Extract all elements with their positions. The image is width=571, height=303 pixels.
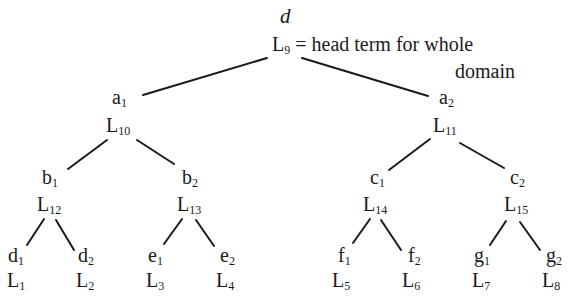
leaf-d1-var: d1 bbox=[8, 245, 24, 265]
edge-c2-g1 bbox=[490, 221, 506, 245]
node-c1-term: L14 bbox=[363, 194, 387, 214]
leaf-d2-var: d2 bbox=[78, 245, 94, 265]
edge-b1-d1 bbox=[27, 219, 44, 245]
node-b1-term: L12 bbox=[37, 194, 61, 214]
leaf-g2-term: L8 bbox=[542, 270, 560, 290]
node-c2-var: c2 bbox=[510, 167, 525, 187]
node-a1-term: L10 bbox=[106, 115, 130, 135]
edge-b2-e1 bbox=[164, 219, 182, 244]
leaf-e2-term: L4 bbox=[216, 270, 234, 290]
leaf-d1-term: L1 bbox=[7, 270, 25, 290]
edge-a2-c2 bbox=[460, 143, 504, 168]
leaf-e1-var: e1 bbox=[148, 245, 163, 265]
edge-c2-g2 bbox=[520, 222, 540, 250]
leaf-d2-term: L2 bbox=[76, 270, 94, 290]
edge-b2-e2 bbox=[196, 220, 214, 246]
root-annotation: = head term for whole bbox=[295, 33, 473, 55]
edge-root-a1 bbox=[143, 58, 267, 95]
edge-a1-b1 bbox=[68, 140, 107, 169]
node-c2-term: L15 bbox=[504, 194, 528, 214]
node-b1-var: b1 bbox=[42, 167, 58, 187]
edge-c1-f2 bbox=[381, 220, 401, 250]
edge-root-a2 bbox=[302, 58, 428, 96]
root-term: L9 = head term for whole bbox=[272, 34, 473, 54]
edge-c1-f1 bbox=[353, 219, 370, 243]
leaf-g2-var: g2 bbox=[546, 245, 562, 265]
root-term-letter: L bbox=[272, 33, 284, 55]
root-variable: d bbox=[280, 6, 291, 26]
leaf-f1-var: f1 bbox=[338, 245, 351, 265]
root-annotation-line2: domain bbox=[455, 61, 515, 81]
leaf-e1-term: L3 bbox=[146, 270, 164, 290]
edge-b1-d2 bbox=[56, 220, 74, 250]
root-term-subscript: 9 bbox=[284, 43, 290, 57]
node-a2-var: a2 bbox=[439, 87, 454, 107]
node-b2-term: L13 bbox=[177, 194, 201, 214]
node-c1-var: c1 bbox=[370, 167, 385, 187]
node-b2-var: b2 bbox=[182, 167, 198, 187]
leaf-f1-term: L5 bbox=[332, 270, 350, 290]
edge-a2-c1 bbox=[389, 139, 430, 170]
leaf-g1-var: g1 bbox=[474, 245, 490, 265]
edge-a1-b2 bbox=[137, 140, 174, 164]
leaf-f2-term: L6 bbox=[402, 270, 420, 290]
leaf-g1-term: L7 bbox=[472, 270, 490, 290]
node-a2-term: L11 bbox=[433, 115, 457, 135]
tree-diagram: d L9 = head term for whole domain a1 L10… bbox=[0, 0, 571, 303]
leaf-f2-var: f2 bbox=[408, 245, 421, 265]
leaf-e2-var: e2 bbox=[220, 245, 235, 265]
node-a1-var: a1 bbox=[112, 87, 127, 107]
